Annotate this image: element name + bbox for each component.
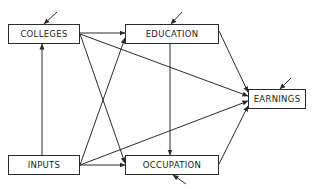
disturbance-colleges-arrow-icon	[44, 12, 57, 24]
edge-colleges-to-occupation-arrow-icon	[80, 34, 125, 163]
disturbance-occupation-arrow-icon	[173, 175, 186, 184]
node-colleges: COLLEGES	[8, 24, 80, 44]
edge-inputs-to-education-arrow-icon	[80, 38, 125, 165]
node-occupation: OCCUPATION	[125, 155, 219, 175]
node-inputs: INPUTS	[8, 155, 80, 175]
node-label-occupation: OCCUPATION	[143, 160, 201, 170]
node-label-inputs: INPUTS	[28, 160, 61, 170]
path-diagram: COLLEGES EDUCATION EARNINGS INPUTS OCCUP…	[0, 0, 314, 189]
disturbance-earnings-arrow-icon	[280, 78, 291, 89]
edge-occupation-to-earnings-arrow-icon	[219, 106, 248, 164]
edge-education-to-earnings-arrow-icon	[219, 31, 248, 92]
disturbance-education-arrow-icon	[171, 12, 182, 24]
edge-group	[42, 31, 248, 165]
node-label-colleges: COLLEGES	[20, 29, 67, 39]
node-label-education: EDUCATION	[146, 29, 199, 39]
node-earnings: EARNINGS	[248, 89, 306, 109]
node-education: EDUCATION	[125, 24, 219, 44]
node-label-earnings: EARNINGS	[254, 94, 301, 104]
